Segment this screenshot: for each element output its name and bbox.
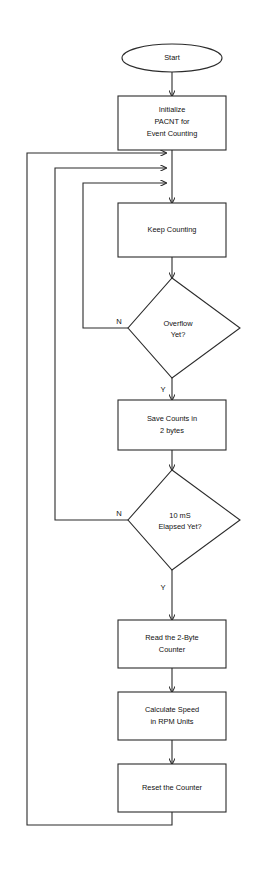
flowchart-canvas: Start Initialize PACNT for Event Countin… xyxy=(0,0,266,870)
node-elapsed-label-line2: Elapsed Yet? xyxy=(158,522,201,531)
branch-label-elapsed-no: N xyxy=(116,509,121,518)
branch-label-overflow-no: N xyxy=(116,317,121,326)
node-calculate-speed-label-line2: in RPM Units xyxy=(150,717,193,726)
node-initialize-label-line1: Initialize xyxy=(159,105,186,114)
node-save-counts-label-line2: 2 bytes xyxy=(160,426,184,435)
node-overflow-label-line2: Yet? xyxy=(171,330,186,339)
node-overflow-label-line1: Overflow xyxy=(163,319,193,328)
node-read-counter-label-line1: Read the 2-Byte xyxy=(145,633,198,642)
branch-label-elapsed-yes: Y xyxy=(160,583,165,592)
branch-label-overflow-yes: Y xyxy=(160,385,165,394)
node-overflow-shape xyxy=(128,278,240,378)
node-read-counter-label-line2: Counter xyxy=(159,645,186,654)
node-save-counts-label-line1: Save Counts in xyxy=(147,414,197,423)
node-reset-counter-label: Reset the Counter xyxy=(142,783,203,792)
node-keep-counting-label: Keep Counting xyxy=(148,225,197,234)
flowchart-svg: Start Initialize PACNT for Event Countin… xyxy=(0,0,266,870)
node-start-label: Start xyxy=(164,53,180,62)
node-calculate-speed-label-line1: Calculate Speed xyxy=(145,705,199,714)
node-initialize-label-line3: Event Counting xyxy=(147,129,198,138)
node-initialize-label-line2: PACNT for xyxy=(154,117,190,126)
node-elapsed-shape xyxy=(128,470,240,570)
node-elapsed-label-line1: 10 mS xyxy=(169,511,190,520)
